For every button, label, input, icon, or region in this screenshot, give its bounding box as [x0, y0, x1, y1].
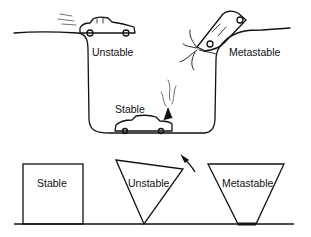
- stability-diagram: Unstable Stable Metastable Stable Unstab…: [0, 0, 311, 237]
- stable-block: [23, 164, 83, 224]
- top-label-stable: Stable: [115, 103, 145, 115]
- pit-terrain: [14, 28, 290, 133]
- diagram-drawing: [0, 0, 311, 237]
- block-label-metastable: Metastable: [222, 177, 273, 189]
- block-label-unstable: Unstable: [128, 177, 169, 189]
- top-label-unstable: Unstable: [92, 46, 133, 58]
- top-label-metastable: Metastable: [229, 46, 280, 58]
- metastable-trapezoid: [208, 164, 284, 224]
- unstable-triangle: [116, 160, 183, 224]
- block-label-stable: Stable: [37, 177, 67, 189]
